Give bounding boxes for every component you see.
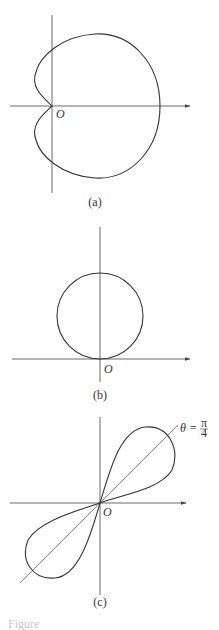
frac-den: 4 <box>201 426 207 440</box>
footer-text: Figure <box>8 617 39 630</box>
theta-annotation: θ = π 4 <box>180 416 208 440</box>
caption-c: (c) <box>93 595 106 609</box>
panel-b: O (b) <box>12 227 190 402</box>
caption-b: (b) <box>93 388 107 402</box>
panel-c: O θ = π 4 (c) <box>10 416 208 609</box>
origin-label: O <box>103 505 112 519</box>
origin-label: O <box>104 362 113 376</box>
polar-curves-figure: O (a) O (b) O θ = π 4 (c) Figure <box>0 0 219 630</box>
theta-label: θ = <box>180 421 197 435</box>
origin-label: O <box>56 107 65 121</box>
panel-a: O (a) <box>10 15 190 209</box>
theta-pi-over-4-line <box>20 425 178 583</box>
caption-a: (a) <box>88 195 101 209</box>
